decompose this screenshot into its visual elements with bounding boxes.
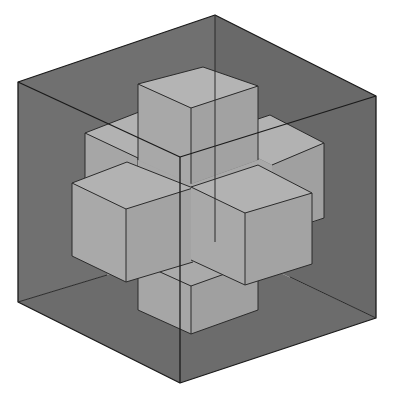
nested-cubes-figure bbox=[0, 0, 394, 400]
diagram-canvas bbox=[0, 0, 394, 400]
